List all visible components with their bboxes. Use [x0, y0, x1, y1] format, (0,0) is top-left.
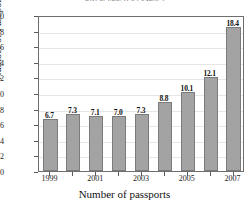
- y-tick-mark: [34, 16, 38, 17]
- y-tick-mark: [34, 125, 38, 126]
- y-tick-mark: [34, 110, 38, 111]
- bar: [43, 119, 57, 171]
- bar-value-label: 7.0: [114, 108, 123, 117]
- y-tick-label: 14: [0, 58, 4, 67]
- y-tick-mark: [34, 94, 38, 95]
- bar-value-label: 12.1: [203, 69, 215, 78]
- bar-value-label: 7.3: [137, 106, 146, 115]
- x-tick-mark: [49, 172, 50, 176]
- bar-value-label: 6.7: [45, 111, 54, 120]
- bar: [135, 114, 149, 171]
- y-tick-label: 2: [0, 152, 4, 161]
- x-tick-mark: [118, 172, 119, 176]
- y-tick-mark: [34, 156, 38, 157]
- x-tick-mark: [210, 172, 211, 176]
- y-tick-label: 18: [0, 27, 4, 36]
- y-tick-label: 4: [0, 136, 4, 145]
- bar: [181, 92, 195, 171]
- x-tick-mark: [72, 172, 73, 176]
- bar-value-label: 7.3: [68, 106, 77, 115]
- x-axis-title: Number of passports: [0, 188, 249, 200]
- bar: [226, 27, 240, 171]
- bar-value-label: 8.8: [159, 94, 168, 103]
- y-tick-mark: [34, 32, 38, 33]
- y-tick-label: 0: [0, 168, 4, 177]
- y-tick-mark: [34, 63, 38, 64]
- bar: [89, 116, 103, 171]
- bar-series: [39, 17, 243, 171]
- bar: [158, 102, 172, 171]
- bar: [204, 77, 218, 171]
- chart-figure: Fiscal year (Oct.-Sept.) Number of Passp…: [0, 0, 249, 206]
- y-tick-mark: [34, 78, 38, 79]
- x-tick-mark: [95, 172, 96, 176]
- bar-value-label: 7.1: [91, 108, 100, 117]
- y-tick-mark: [34, 141, 38, 142]
- plot-area: [38, 16, 244, 172]
- bar-value-label: 18.4: [226, 19, 238, 28]
- bar-value-label: 10.1: [181, 84, 193, 93]
- bar: [66, 114, 80, 171]
- y-tick-mark: [34, 172, 38, 173]
- y-tick-label: 6: [0, 121, 4, 130]
- bar: [112, 116, 126, 171]
- figure-top-caption: Fiscal year (Oct.-Sept.): [0, 0, 249, 1]
- x-tick-mark: [141, 172, 142, 176]
- y-tick-label: 16: [0, 43, 4, 52]
- y-tick-label: 12: [0, 74, 4, 83]
- y-tick-mark: [34, 47, 38, 48]
- x-tick-mark: [233, 172, 234, 176]
- x-tick-mark: [187, 172, 188, 176]
- y-tick-label: 10: [0, 90, 4, 99]
- y-tick-label: 20: [0, 12, 4, 21]
- y-tick-label: 8: [0, 105, 4, 114]
- x-tick-mark: [164, 172, 165, 176]
